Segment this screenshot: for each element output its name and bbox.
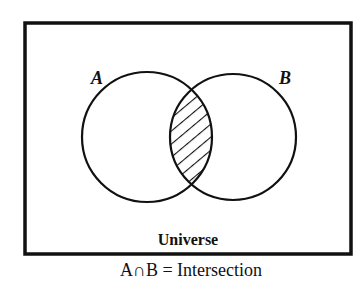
set-b-label: B: [278, 68, 291, 88]
venn-diagram: A B Universe A∩B = Intersection: [0, 0, 362, 292]
universe-label: Universe: [158, 231, 218, 248]
caption: A∩B = Intersection: [120, 260, 262, 280]
set-a-label: A: [90, 68, 103, 88]
